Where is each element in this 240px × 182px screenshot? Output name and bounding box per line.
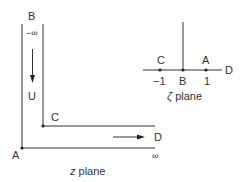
zeta-plane-title-rest: plane bbox=[172, 90, 202, 102]
zeta-tick-one: 1 bbox=[204, 76, 210, 87]
z-label-D: D bbox=[154, 132, 162, 143]
zeta-point-A bbox=[204, 68, 207, 71]
z-label-C: C bbox=[51, 112, 59, 123]
z-label-U: U bbox=[28, 91, 36, 102]
zeta-tick-B: B bbox=[179, 76, 186, 87]
zeta-point-C bbox=[158, 68, 161, 71]
z-plane-title-rest: plane bbox=[76, 165, 106, 177]
zeta-point-B bbox=[181, 68, 184, 71]
zeta-label-D: D bbox=[225, 65, 233, 76]
zeta-tick-minus-one: −1 bbox=[153, 76, 166, 87]
arrowhead-right-icon bbox=[137, 135, 145, 140]
z-label-infinity: ∞ bbox=[152, 151, 158, 162]
z-label-B: B bbox=[28, 11, 35, 22]
arrowhead-down-icon bbox=[30, 75, 35, 83]
z-point-A bbox=[20, 146, 23, 149]
zeta-label-A: A bbox=[202, 55, 209, 66]
z-label-A: A bbox=[12, 150, 19, 161]
z-label-minus-infinity: −∞ bbox=[26, 28, 38, 39]
zeta-label-C: C bbox=[157, 55, 165, 66]
zeta-plane-title: ζ plane bbox=[167, 91, 202, 102]
z-point-C bbox=[41, 124, 44, 127]
z-plane-title: z plane bbox=[70, 166, 105, 177]
